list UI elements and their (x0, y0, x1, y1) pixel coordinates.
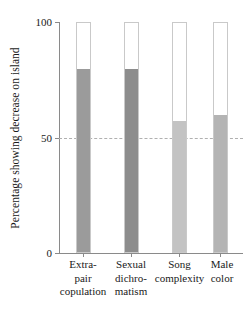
x-label-song-complexity: Song complexity (152, 258, 207, 285)
x-label-line-2: complexity (152, 272, 207, 286)
x-label-male-color: Male color (205, 258, 239, 285)
bar-extra-pair-copulation (76, 22, 91, 253)
bar-chart: Percentage showing decrease on island 10… (0, 0, 250, 321)
x-axis-labels: Extra- pair copulation Sexual dichro- ma… (59, 258, 243, 318)
bar-song-complexity (172, 22, 187, 253)
x-label-line-3: matism (107, 285, 155, 299)
x-label-sexual-dichromatism: Sexual dichro- matism (107, 258, 155, 299)
y-axis-title-text: Percentage showing decrease on island (9, 47, 21, 228)
x-axis-line (59, 253, 243, 254)
y-tick-label-100: 100 (36, 16, 53, 28)
bar-male-color (213, 22, 228, 253)
bar-fill-male-color (214, 115, 227, 252)
x-tick-mark-4 (220, 253, 221, 257)
x-label-line-1: Sexual (107, 258, 155, 272)
bar-sexual-dichromatism (124, 22, 139, 253)
bar-fill-sexual-dichromatism (125, 69, 138, 252)
y-tick-mark-100 (55, 22, 60, 23)
y-axis-title: Percentage showing decrease on island (6, 22, 24, 253)
bar-fill-extra-pair-copulation (77, 69, 90, 252)
bar-fill-song-complexity (173, 121, 186, 252)
x-label-line-2: color (205, 272, 239, 286)
x-tick-mark-3 (179, 253, 180, 257)
x-tick-mark-1 (83, 253, 84, 257)
x-label-line-1: Male (205, 258, 239, 272)
x-label-line-1: Song (152, 258, 207, 272)
y-tick-label-50: 50 (41, 132, 52, 144)
plot-area: 100 50 0 (59, 22, 243, 253)
y-tick-mark-0 (55, 253, 60, 254)
x-label-line-2: dichro- (107, 272, 155, 286)
x-tick-mark-2 (131, 253, 132, 257)
